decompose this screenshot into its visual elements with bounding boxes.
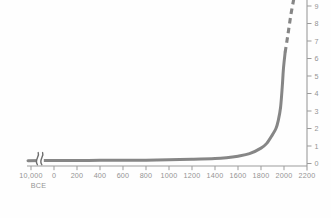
x-tick-label: 1600 bbox=[230, 171, 247, 180]
x-tick-label: 2000 bbox=[276, 171, 293, 180]
x-tick-label: 10,000 bbox=[19, 171, 42, 180]
x-tick-label: 1400 bbox=[207, 171, 224, 180]
y-tick-label: 8 bbox=[315, 19, 319, 28]
population-curve-projected bbox=[285, 0, 294, 52]
y-tick-label: 0 bbox=[315, 159, 319, 168]
x-tick-label: 200 bbox=[71, 171, 84, 180]
axis-break-icon bbox=[36, 151, 43, 165]
population-curve bbox=[28, 0, 294, 161]
y-tick-label: 3 bbox=[315, 107, 319, 116]
y-tick-label: 7 bbox=[315, 37, 319, 46]
x-axis-era-label: BCE bbox=[31, 181, 47, 190]
x-tick-label: 400 bbox=[94, 171, 107, 180]
y-tick-label: 9 bbox=[315, 2, 319, 11]
x-tick-label: 1800 bbox=[253, 171, 270, 180]
y-tick-label: 2 bbox=[315, 124, 319, 133]
chart-canvas: 10,0000200400600800100012001400160018002… bbox=[0, 0, 331, 218]
y-tick-label: 5 bbox=[315, 72, 319, 81]
y-tick-label: 1 bbox=[315, 142, 319, 151]
y-tick-label: 6 bbox=[315, 54, 319, 63]
x-tick-label: 1000 bbox=[161, 171, 178, 180]
x-tick-label: 2200 bbox=[299, 171, 316, 180]
x-tick-label: 0 bbox=[52, 171, 56, 180]
axis-ticks bbox=[31, 6, 312, 170]
y-tick-label: 4 bbox=[315, 89, 319, 98]
x-tick-label: 800 bbox=[140, 171, 153, 180]
population-curve-solid bbox=[28, 52, 285, 160]
x-tick-label: 1200 bbox=[184, 171, 201, 180]
population-growth-chart: 10,0000200400600800100012001400160018002… bbox=[0, 0, 331, 218]
x-tick-label: 600 bbox=[117, 171, 130, 180]
